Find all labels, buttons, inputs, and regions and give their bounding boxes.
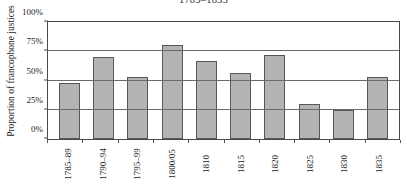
- x-tick-label: 1790–94: [98, 148, 108, 180]
- bar-slot: [86, 22, 120, 139]
- x-label-slot: 1820: [258, 144, 293, 188]
- x-label-slot: 1800/05: [155, 144, 190, 188]
- x-tick-mark: [294, 140, 295, 143]
- x-tick-label: 1800/05: [167, 149, 177, 179]
- x-tick-mark: [224, 140, 225, 143]
- x-tick-mark: [400, 140, 401, 143]
- bar[interactable]: [196, 61, 217, 139]
- x-label-slot: 1830: [327, 144, 362, 188]
- bar-series: [48, 22, 399, 139]
- bar[interactable]: [93, 57, 114, 139]
- x-tick-mark: [188, 140, 189, 143]
- y-tick-label: 25%: [27, 95, 44, 105]
- chart-title: 1785–1835: [0, 0, 407, 5]
- gridline: [48, 80, 399, 81]
- bar-slot: [155, 22, 189, 139]
- y-tick-mark: [44, 108, 48, 109]
- x-tick-mark: [259, 140, 260, 143]
- x-tick-label: 1825: [305, 155, 315, 173]
- x-tick-mark: [365, 140, 366, 143]
- bar[interactable]: [59, 83, 80, 139]
- bar[interactable]: [264, 55, 285, 139]
- x-label-slot: 1795–99: [120, 144, 155, 188]
- y-tick-label: 75%: [27, 36, 44, 46]
- x-tick-mark: [329, 140, 330, 143]
- y-tick-mark: [44, 79, 48, 80]
- bar-slot: [52, 22, 86, 139]
- y-tick-mark: [44, 50, 48, 51]
- y-tick-label: 100%: [22, 7, 43, 17]
- x-tick-label: 1785–89: [63, 148, 73, 180]
- bar-slot: [292, 22, 326, 139]
- x-label-slot: 1815: [224, 144, 259, 188]
- x-label-slot: 1810: [189, 144, 224, 188]
- x-tick-label: 1830: [339, 155, 349, 173]
- x-tick-label: 1795–99: [132, 148, 142, 180]
- y-tick-mark: [44, 21, 48, 22]
- bar[interactable]: [230, 73, 251, 139]
- bar-slot: [121, 22, 155, 139]
- bar-slot: [189, 22, 223, 139]
- bar-slot: [326, 22, 360, 139]
- x-tick-mark: [118, 140, 119, 143]
- x-label-slot: 1785–89: [51, 144, 86, 188]
- bar-slot: [361, 22, 395, 139]
- x-tick-mark: [153, 140, 154, 143]
- x-label-slot: 1790–94: [86, 144, 121, 188]
- x-tick-label: 1820: [270, 155, 280, 173]
- x-axis-labels: 1785–891790–941795–991800/05181018151820…: [47, 144, 400, 188]
- x-tick-mark: [47, 140, 48, 143]
- x-tick-label: 1835: [374, 155, 384, 173]
- bar[interactable]: [333, 110, 354, 139]
- bar-slot: [258, 22, 292, 139]
- bar-chart-figure: 1785–1835 Proportion of francophone just…: [0, 0, 407, 188]
- gridline: [48, 50, 399, 51]
- x-label-slot: 1825: [293, 144, 328, 188]
- bar-slot: [223, 22, 257, 139]
- y-axis-title: Proportion of francophone justices: [6, 1, 16, 141]
- gridline: [48, 109, 399, 110]
- x-tick-label: 1810: [201, 155, 211, 173]
- bar[interactable]: [162, 45, 183, 139]
- plot-area: 0%25%50%75%100%: [47, 21, 400, 140]
- y-tick-label: 0%: [31, 124, 43, 134]
- x-tick-label: 1815: [236, 155, 246, 173]
- y-tick-mark: [44, 138, 48, 139]
- x-tick-mark: [82, 140, 83, 143]
- y-tick-label: 50%: [27, 66, 44, 76]
- x-label-slot: 1835: [362, 144, 397, 188]
